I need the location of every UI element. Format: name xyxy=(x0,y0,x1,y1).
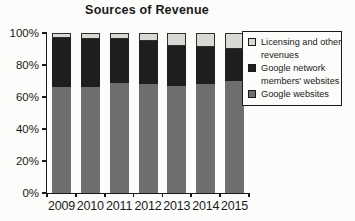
y-tick-40 xyxy=(42,128,47,130)
plot-area: 0%20%40%60%80%100% 200920102011201220132… xyxy=(46,33,249,194)
bar-cell-2014 xyxy=(191,33,220,193)
legend-item-licensing-and-other-revenues: Licensing and otherrevenues xyxy=(248,36,338,62)
x-tick-4 xyxy=(162,193,164,197)
y-tick-label-60: 60% xyxy=(16,91,39,104)
x-tick-7 xyxy=(248,193,250,197)
legend-swatch-licensing-and-other-revenues xyxy=(248,38,256,46)
segment-licensing-and-other-revenues-2014 xyxy=(196,33,215,47)
segment-google-network-members-websites-2014 xyxy=(196,47,215,84)
x-label-2010: 2010 xyxy=(76,199,105,213)
x-label-2009: 2009 xyxy=(47,199,76,213)
segment-google-network-members-websites-2013 xyxy=(167,46,186,86)
y-tick-100 xyxy=(42,32,47,34)
x-axis-labels: 2009201020112012201320142015 xyxy=(47,199,249,213)
x-label-2012: 2012 xyxy=(134,199,163,213)
y-tick-label-20: 20% xyxy=(16,155,39,168)
legend-label-google-network-members-websites: Google networkmembers' websites xyxy=(261,62,339,88)
stacked-bar-2011 xyxy=(110,33,129,193)
bar-cell-2009 xyxy=(47,33,76,193)
segment-google-websites-2011 xyxy=(110,83,129,193)
legend-label-line-google-websites-0: Google websites xyxy=(261,88,329,101)
x-tick-6 xyxy=(219,193,221,197)
segment-google-websites-2014 xyxy=(196,84,215,193)
x-label-2015: 2015 xyxy=(220,199,249,213)
legend-label-line-licensing-and-other-revenues-1: revenues xyxy=(261,49,341,62)
stacked-bar-2013 xyxy=(167,33,186,193)
legend-label-line-google-network-members-websites-1: members' websites xyxy=(261,75,339,88)
segment-google-network-members-websites-2009 xyxy=(52,38,71,88)
legend-item-google-network-members-websites: Google networkmembers' websites xyxy=(248,62,338,88)
segment-licensing-and-other-revenues-2012 xyxy=(139,33,158,41)
y-tick-60 xyxy=(42,96,47,98)
segment-licensing-and-other-revenues-2013 xyxy=(167,33,186,46)
y-tick-label-0: 0% xyxy=(22,187,39,200)
bar-cell-2012 xyxy=(134,33,163,193)
y-tick-label-100: 100% xyxy=(10,27,39,40)
bar-cell-2010 xyxy=(76,33,105,193)
legend-swatch-google-network-members-websites xyxy=(248,64,256,72)
y-tick-20 xyxy=(42,160,47,162)
x-tick-3 xyxy=(133,193,135,197)
segment-google-websites-2012 xyxy=(139,84,158,193)
stacked-bar-2012 xyxy=(139,33,158,193)
x-label-2013: 2013 xyxy=(162,199,191,213)
segment-google-websites-2010 xyxy=(81,87,100,193)
segment-google-network-members-websites-2011 xyxy=(110,39,129,82)
bar-cell-2013 xyxy=(162,33,191,193)
segment-google-websites-2009 xyxy=(52,87,71,193)
y-tick-label-40: 40% xyxy=(16,123,39,136)
chart-figure: Sources of Revenue 0%20%40%60%80%100% 20… xyxy=(0,0,355,221)
stacked-bar-2014 xyxy=(196,33,215,193)
segment-google-websites-2013 xyxy=(167,86,186,193)
legend-label-google-websites: Google websites xyxy=(261,88,329,101)
x-tick-0 xyxy=(46,193,48,197)
x-tick-1 xyxy=(75,193,77,197)
stacked-bar-2009 xyxy=(52,33,71,193)
segment-google-network-members-websites-2012 xyxy=(139,41,158,84)
legend: Licensing and otherrevenuesGoogle networ… xyxy=(242,31,342,106)
y-tick-label-80: 80% xyxy=(16,59,39,72)
segment-google-network-members-websites-2010 xyxy=(81,39,100,87)
legend-label-line-licensing-and-other-revenues-0: Licensing and other xyxy=(261,36,341,49)
x-tick-2 xyxy=(104,193,106,197)
legend-label-licensing-and-other-revenues: Licensing and otherrevenues xyxy=(261,36,341,62)
legend-swatch-google-websites xyxy=(248,90,256,98)
legend-item-google-websites: Google websites xyxy=(248,88,338,101)
y-tick-80 xyxy=(42,64,47,66)
x-label-2014: 2014 xyxy=(191,199,220,213)
bar-cell-2011 xyxy=(105,33,134,193)
chart-title: Sources of Revenue xyxy=(46,3,248,17)
x-tick-5 xyxy=(190,193,192,197)
bars-container xyxy=(47,33,249,193)
stacked-bar-2010 xyxy=(81,33,100,193)
legend-label-line-google-network-members-websites-0: Google network xyxy=(261,62,339,75)
x-label-2011: 2011 xyxy=(105,199,134,213)
